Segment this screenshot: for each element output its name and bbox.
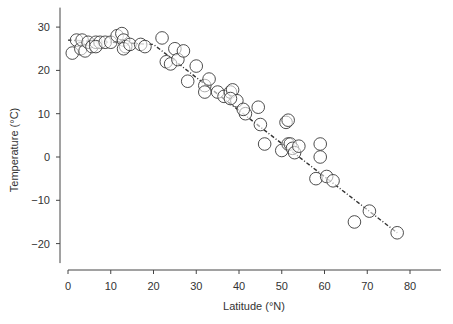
y-axis-label: Temperature (°C): [8, 108, 20, 192]
data-point: [177, 45, 190, 58]
data-point: [314, 138, 327, 151]
x-tick-label: 40: [233, 280, 245, 292]
scatter-chart: 3020100−10−20 01020304050607080 Latitude…: [0, 0, 453, 324]
x-tick-label: 30: [190, 280, 202, 292]
data-point: [199, 86, 212, 99]
data-point: [139, 40, 152, 53]
x-axis-label: Latitude (°N): [223, 300, 285, 312]
x-tick-label: 50: [276, 280, 288, 292]
data-point: [293, 140, 306, 153]
x-axis: 01020304050607080: [65, 270, 441, 292]
x-tick-label: 70: [361, 280, 373, 292]
data-point: [327, 175, 340, 188]
data-point: [156, 32, 169, 45]
y-tick-label: 30: [38, 21, 50, 33]
data-point: [348, 216, 361, 229]
x-tick-label: 20: [147, 280, 159, 292]
y-tick-label: 20: [38, 64, 50, 76]
data-point: [363, 205, 376, 218]
x-tick-label: 10: [105, 280, 117, 292]
data-point: [254, 118, 267, 131]
data-point: [252, 101, 265, 114]
data-point: [258, 138, 271, 151]
y-tick-label: −20: [31, 238, 50, 250]
x-tick-label: 80: [404, 280, 416, 292]
data-point: [224, 92, 237, 105]
data-point: [391, 226, 404, 239]
y-tick-label: 0: [44, 151, 50, 163]
data-points: [66, 27, 404, 239]
data-point: [203, 73, 216, 86]
y-axis: 3020100−10−20: [31, 8, 60, 263]
data-point: [181, 75, 194, 88]
y-tick-label: −10: [31, 194, 50, 206]
data-point: [237, 103, 250, 116]
trend-line: [68, 40, 397, 233]
data-point: [190, 60, 203, 73]
y-tick-label: 10: [38, 108, 50, 120]
data-point: [314, 151, 327, 164]
x-tick-label: 0: [65, 280, 71, 292]
x-tick-label: 60: [318, 280, 330, 292]
data-point: [282, 114, 295, 127]
